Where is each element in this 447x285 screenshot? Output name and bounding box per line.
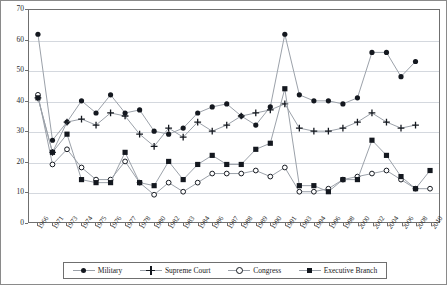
data-point-circle-filled xyxy=(369,50,374,55)
data-point-square-filled xyxy=(326,189,331,194)
data-point-circle-open xyxy=(224,171,229,176)
y-axis-tick-label: 60 xyxy=(5,35,24,44)
data-point-square-filled xyxy=(297,183,302,188)
data-point-plus xyxy=(369,110,376,117)
y-axis-tick-mark xyxy=(25,223,28,224)
data-point-circle-filled xyxy=(326,98,331,103)
x-axis-tick-mark xyxy=(154,223,155,226)
data-point-circle-filled xyxy=(35,32,40,37)
x-axis-tick-mark xyxy=(198,223,199,226)
legend-label: Military xyxy=(98,266,123,275)
legend-label: Congress xyxy=(253,266,281,275)
x-axis-tick-mark xyxy=(358,223,359,226)
y-axis-tick-label: 20 xyxy=(5,157,24,166)
x-axis-tick-mark xyxy=(125,223,126,226)
data-point-circle-filled xyxy=(108,92,113,97)
data-point-square-filled xyxy=(384,153,389,158)
data-point-square-filled xyxy=(224,162,229,167)
data-point-circle-filled xyxy=(181,126,186,131)
legend-label: Supreme Court xyxy=(165,266,211,275)
data-point-circle-filled xyxy=(93,110,98,115)
data-point-circle-filled xyxy=(311,98,316,103)
data-point-circle-filled xyxy=(282,32,287,37)
x-axis-tick-mark xyxy=(300,223,301,226)
x-axis-tick-mark xyxy=(343,223,344,226)
data-point-square-filled xyxy=(93,180,98,185)
chart-figure: 010203040506070 196619711973197419751976… xyxy=(0,0,447,285)
data-point-circle-filled xyxy=(253,123,258,128)
x-axis-tick-mark xyxy=(329,223,330,226)
data-point-square-filled xyxy=(166,159,171,164)
x-axis-tick-mark xyxy=(81,223,82,226)
x-axis-tick-mark xyxy=(66,223,67,226)
x-axis-tick-mark xyxy=(110,223,111,226)
data-point-square-filled xyxy=(369,138,374,143)
x-axis-tick-mark xyxy=(285,223,286,226)
legend-marker-circle-open-icon xyxy=(228,266,250,276)
chart-legend: MilitarySupreme CourtCongressExecutive B… xyxy=(63,262,387,279)
data-point-circle-open xyxy=(311,189,316,194)
data-point-circle-open xyxy=(181,189,186,194)
legend-marker-plus-icon xyxy=(140,266,162,276)
y-axis-tick-label: 10 xyxy=(5,187,24,196)
y-axis-tick-label: 40 xyxy=(5,96,24,105)
data-point-square-filled xyxy=(50,150,55,155)
data-point-circle-filled xyxy=(166,132,171,137)
data-point-circle-open xyxy=(297,189,302,194)
data-point-plus xyxy=(223,122,230,129)
data-point-circle-filled xyxy=(355,95,360,100)
data-point-square-filled xyxy=(181,177,186,182)
data-point-plus xyxy=(310,128,317,135)
y-axis-tick-label: 0 xyxy=(5,218,24,227)
x-axis-tick-mark xyxy=(139,223,140,226)
x-axis-tick-mark xyxy=(168,223,169,226)
legend-label: Executive Branch xyxy=(324,266,378,275)
legend-marker-circle-filled-icon xyxy=(73,266,95,276)
data-point-plus xyxy=(296,125,303,132)
data-point-circle-filled xyxy=(340,101,345,106)
data-point-plus xyxy=(340,125,347,132)
data-point-circle-filled xyxy=(398,74,403,79)
y-axis-tick-label: 50 xyxy=(5,65,24,74)
data-point-circle-filled xyxy=(50,138,55,143)
data-point-square-filled xyxy=(268,141,273,146)
data-point-circle-open xyxy=(123,159,128,164)
data-point-circle-open xyxy=(428,186,433,191)
data-point-square-filled xyxy=(152,183,157,188)
x-axis-tick-mark xyxy=(270,223,271,226)
data-point-circle-open xyxy=(152,192,157,197)
data-point-square-filled xyxy=(311,183,316,188)
data-point-circle-filled xyxy=(195,110,200,115)
data-point-plus xyxy=(412,122,419,129)
data-point-square-filled xyxy=(427,168,432,173)
x-axis-tick-mark xyxy=(373,223,374,226)
data-point-square-filled xyxy=(108,180,113,185)
data-point-circle-filled xyxy=(224,101,229,106)
data-point-square-filled xyxy=(239,162,244,167)
data-point-circle-open xyxy=(239,171,244,176)
data-point-circle-open xyxy=(195,180,200,185)
x-axis-tick-mark xyxy=(37,223,38,226)
data-point-circle-filled xyxy=(384,50,389,55)
legend-entry-supreme-court[interactable]: Supreme Court xyxy=(140,266,211,276)
legend-entry-executive-branch[interactable]: Executive Branch xyxy=(299,266,378,276)
legend-entry-military[interactable]: Military xyxy=(73,266,123,276)
data-point-plus xyxy=(209,128,216,135)
data-point-circle-open xyxy=(79,165,84,170)
data-point-square-filled xyxy=(122,150,127,155)
data-point-square-filled xyxy=(340,177,345,182)
x-axis-tick-mark xyxy=(431,223,432,226)
data-point-plus xyxy=(325,128,332,135)
x-axis-tick-mark xyxy=(241,223,242,226)
data-point-square-filled xyxy=(398,174,403,179)
data-point-square-filled xyxy=(195,162,200,167)
x-axis-tick-mark xyxy=(314,223,315,226)
data-point-square-filled xyxy=(79,177,84,182)
data-point-circle-filled xyxy=(79,98,84,103)
data-point-circle-open xyxy=(65,147,70,152)
plot-area xyxy=(28,9,440,223)
data-point-circle-open xyxy=(384,168,389,173)
data-point-circle-filled xyxy=(210,104,215,109)
x-axis-tick-mark xyxy=(227,223,228,226)
legend-entry-congress[interactable]: Congress xyxy=(228,266,281,276)
